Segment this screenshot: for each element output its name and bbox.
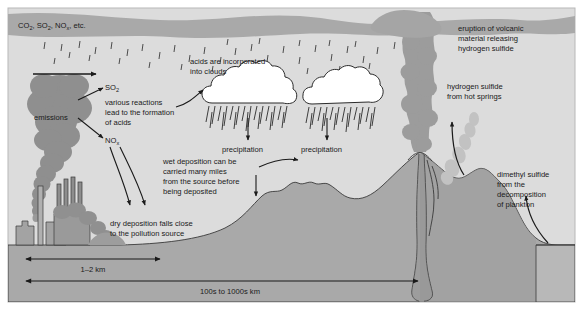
label-gases: CO2, SO2, NOx, etc. [18, 21, 86, 31]
acid-deposition-diagram: CO2, SO2, NOx, etc. emissions SO2 NOx va… [0, 0, 583, 310]
label-scale-near: 1–2 km [81, 265, 106, 274]
label-scale-far: 100s to 1000s km [200, 287, 260, 296]
label-dry-deposition: dry deposition falls close to the pollut… [110, 219, 195, 238]
label-emissions: emissions [34, 113, 68, 122]
factory-chimney-tall [38, 186, 43, 245]
diagram-canvas: CO2, SO2, NOx, etc. emissions SO2 NOx va… [0, 0, 583, 310]
label-hot-springs: hydrogen sulfide from hot springs [447, 82, 505, 101]
label-precipitation-right: precipitation [301, 145, 342, 154]
ocean [536, 245, 575, 302]
label-precipitation-left: precipitation [222, 145, 263, 154]
